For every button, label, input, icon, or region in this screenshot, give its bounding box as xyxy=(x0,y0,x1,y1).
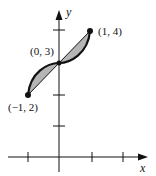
point-right xyxy=(87,28,93,34)
point-center xyxy=(57,61,62,66)
point-label-center: (0, 3) xyxy=(30,45,54,58)
y-axis-arrow-icon xyxy=(56,10,63,20)
y-axis-label: y xyxy=(65,5,72,19)
x-axis-arrow-icon xyxy=(138,154,148,161)
point-left xyxy=(25,92,31,98)
x-axis-label: x xyxy=(139,161,146,175)
point-label-right: (1, 4) xyxy=(98,25,122,38)
point-label-left: (−1, 2) xyxy=(8,101,38,114)
graph: y x (−1, 2) (0, 3) (1, 4) xyxy=(0,0,156,176)
